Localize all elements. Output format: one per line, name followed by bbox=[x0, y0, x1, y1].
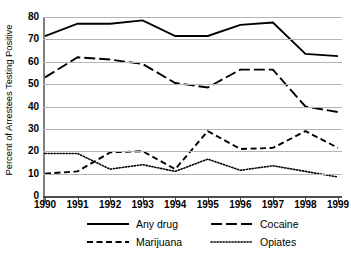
x-tick-label: 1992 bbox=[93, 199, 127, 211]
gridline bbox=[43, 84, 342, 85]
x-tick-label: 1995 bbox=[191, 199, 225, 211]
y-tick-label: 60 bbox=[19, 57, 39, 67]
legend-label: Opiates bbox=[260, 236, 296, 248]
gridline bbox=[43, 107, 342, 108]
x-tick-label: 1997 bbox=[256, 199, 290, 211]
legend-swatch-dash bbox=[86, 236, 130, 248]
line-chart: Percent of Arrestees Testing Positive 01… bbox=[0, 0, 351, 258]
gridline bbox=[43, 174, 342, 175]
y-tick-label: 50 bbox=[19, 79, 39, 89]
x-axis-line bbox=[43, 196, 342, 198]
gridline bbox=[43, 17, 342, 18]
y-axis-title: Percent of Arrestees Testing Positive bbox=[2, 2, 16, 198]
legend-swatch-solid bbox=[86, 218, 130, 230]
x-tick-label: 1991 bbox=[61, 199, 95, 211]
x-tick-label: 1999 bbox=[321, 199, 351, 211]
legend-label: Any drug bbox=[136, 218, 178, 230]
legend-swatch-long-dash bbox=[210, 218, 254, 230]
legend-item-cocaine[interactable]: Cocaine bbox=[210, 216, 332, 232]
series-line-marijuana bbox=[45, 131, 338, 174]
x-tick-label: 1990 bbox=[28, 199, 62, 211]
legend-row: MarijuanaOpiates bbox=[86, 234, 332, 250]
gridline bbox=[43, 151, 342, 152]
x-tick-label: 1996 bbox=[223, 199, 257, 211]
legend-item-any-drug[interactable]: Any drug bbox=[86, 216, 210, 232]
gridline bbox=[43, 129, 342, 130]
plot-area bbox=[43, 12, 342, 196]
x-tick-label: 1994 bbox=[158, 199, 192, 211]
y-tick-label: 80 bbox=[19, 12, 39, 22]
legend-item-marijuana[interactable]: Marijuana bbox=[86, 234, 210, 250]
x-tick-label: 1998 bbox=[288, 199, 322, 211]
x-tick-label: 1993 bbox=[126, 199, 160, 211]
y-tick-label: 70 bbox=[19, 34, 39, 44]
y-tick-label: 10 bbox=[19, 169, 39, 179]
legend-item-opiates[interactable]: Opiates bbox=[210, 234, 332, 250]
legend-row: Any drugCocaine bbox=[86, 216, 332, 232]
x-axis-tick-labels: 1990199119921993199419951996199719981999 bbox=[43, 199, 342, 213]
y-tick-label: 20 bbox=[19, 146, 39, 156]
legend: Any drugCocaineMarijuanaOpiates bbox=[86, 216, 332, 252]
gridline bbox=[43, 39, 342, 40]
gridline bbox=[43, 62, 342, 63]
y-tick-label: 30 bbox=[19, 124, 39, 134]
legend-swatch-dotted bbox=[210, 236, 254, 248]
legend-label: Marijuana bbox=[136, 236, 182, 248]
y-tick-label: 40 bbox=[19, 102, 39, 112]
legend-label: Cocaine bbox=[260, 218, 299, 230]
series-line-any-drug bbox=[45, 20, 338, 56]
y-axis-tick-labels: 01020304050607080 bbox=[16, 0, 39, 258]
